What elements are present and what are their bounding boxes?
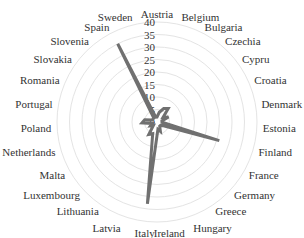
category-label: Slovenia (50, 35, 89, 47)
category-label: Spain (84, 21, 110, 33)
grid-ring (95, 60, 220, 185)
radial-tick-label: 15 (144, 79, 156, 91)
radar-chart-svg: 0510152025303540 AustriaBelgiumBulgariaC… (0, 0, 304, 238)
category-label: Portugal (15, 98, 52, 110)
category-label: Greece (215, 205, 246, 217)
category-label: Poland (21, 122, 52, 134)
category-label: Ireland (154, 227, 186, 238)
category-label: Netherlands (2, 146, 55, 158)
radial-tick-label: 30 (144, 41, 156, 53)
category-label: Finland (259, 146, 293, 158)
category-label: Sweden (98, 11, 133, 23)
category-label: Luxembourg (23, 189, 80, 201)
category-label: Slovakia (34, 53, 73, 65)
category-label: Croatia (254, 74, 286, 86)
category-label: Cypru (242, 53, 270, 65)
category-label: Austria (141, 8, 174, 20)
category-label: Estonia (263, 122, 296, 134)
category-label: Italy (135, 227, 156, 238)
category-label: Hungary (193, 222, 232, 234)
grid-ring (57, 22, 257, 222)
category-label: Bulgaria (205, 21, 243, 33)
category-label: Denmark (261, 98, 302, 110)
radial-tick-label: 20 (144, 66, 156, 78)
radial-tick-label: 35 (144, 29, 156, 41)
radar-chart: 0510152025303540 AustriaBelgiumBulgariaC… (0, 0, 304, 238)
category-label: Romania (20, 74, 60, 86)
category-label: Latvia (93, 222, 121, 234)
category-label: Malta (40, 169, 66, 181)
grid-ring (70, 35, 245, 210)
radial-tick-label: 25 (144, 54, 156, 66)
grid-ring (120, 85, 195, 160)
grid-ring (107, 72, 207, 172)
category-label: Lithuania (57, 205, 99, 217)
grid-ring (82, 47, 232, 197)
category-label: Czechia (225, 35, 261, 47)
radar-grid (57, 22, 257, 222)
category-label: France (249, 169, 279, 181)
category-label: Germany (234, 189, 275, 201)
